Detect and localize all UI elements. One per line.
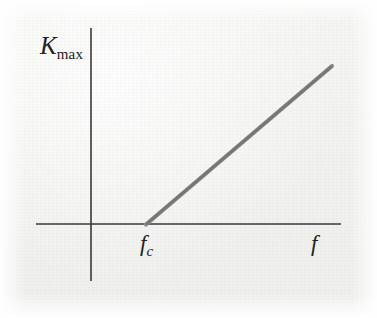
y-axis-label-subscript: max xyxy=(57,46,83,62)
y-axis-label-symbol: K xyxy=(40,32,57,59)
x-axis-threshold-label: fc xyxy=(140,232,153,259)
figure-container: Kmax fc f xyxy=(0,0,377,318)
x-axis-threshold-subscript: c xyxy=(146,243,153,259)
y-axis-label: Kmax xyxy=(40,33,83,62)
kmax-line-series-core xyxy=(147,67,331,224)
x-axis-label: f xyxy=(311,232,317,255)
